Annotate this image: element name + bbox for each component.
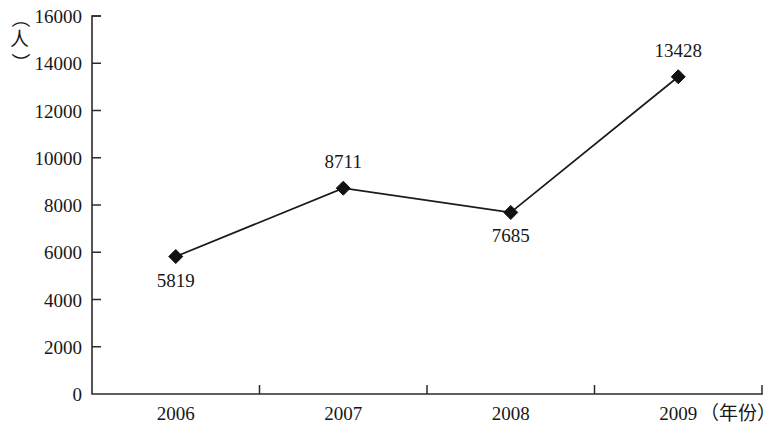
data-point-markers <box>169 70 686 264</box>
x-axis-tick-label: 2009 <box>659 404 697 423</box>
line-chart: （ 人 ） （年份） 02000400060008000100001200014… <box>0 0 776 426</box>
y-axis-tick-label: 12000 <box>0 101 82 120</box>
data-value-label: 5819 <box>157 271 195 290</box>
data-point-marker <box>169 250 183 264</box>
data-value-label: 8711 <box>325 152 362 171</box>
y-axis-tick-label: 4000 <box>0 290 82 309</box>
y-axis-tick-label: 2000 <box>0 337 82 356</box>
data-series-line <box>176 77 679 257</box>
x-axis-tick-label: 2006 <box>157 404 195 423</box>
y-axis-tick-label: 16000 <box>0 7 82 26</box>
data-value-label: 13428 <box>655 41 703 60</box>
x-axis-unit-label: （年份） <box>700 404 776 423</box>
y-axis-ticks <box>92 16 101 347</box>
y-axis-tick-label: 10000 <box>0 148 82 167</box>
y-axis-tick-label: 8000 <box>0 196 82 215</box>
x-axis-ticks <box>260 385 595 394</box>
x-axis-tick-label: 2008 <box>492 404 530 423</box>
y-axis-tick-label: 14000 <box>0 54 82 73</box>
y-axis-tick-label: 6000 <box>0 243 82 262</box>
y-axis-tick-label: 0 <box>0 385 82 404</box>
chart-axes <box>92 16 762 394</box>
data-point-marker <box>336 181 350 195</box>
x-axis-tick-label: 2007 <box>324 404 362 423</box>
chart-canvas <box>0 0 776 426</box>
data-value-label: 7685 <box>492 226 530 245</box>
